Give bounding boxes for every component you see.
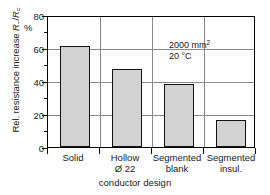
x-label-solid-line1: Solid (47, 152, 99, 163)
x-label-segmented-insul: Segmented insul. (202, 152, 260, 174)
x-label-hollow: Hollow Ø 22 (99, 152, 151, 174)
annotation-area-exponent: 2 (207, 39, 211, 46)
bar-hollow (112, 69, 142, 147)
x-label-segmented-blank-line1: Segmented (149, 152, 205, 163)
y-axis-unit: % (24, 23, 32, 32)
annotation-area-line: 2000 mm2 (169, 37, 210, 51)
x-label-segmented-insul-line1: Segmented (202, 152, 260, 163)
x-label-segmented-blank-line2: blank (149, 163, 205, 174)
annotation-temperature-line: 20 °C (169, 51, 210, 62)
y-axis-symbol-numerator: R (10, 24, 21, 31)
bar-segmented-insul (216, 120, 246, 147)
y-tick-label-20: 20 (20, 111, 44, 120)
bar-segmented-blank (164, 84, 194, 147)
y-tick-label-0: 0 (20, 144, 44, 153)
y-axis-symbol-denominator-sub: = (15, 8, 22, 12)
x-label-solid: Solid (47, 152, 99, 163)
y-tick-label-60: 60 (20, 45, 44, 54)
gridline-x-2 (152, 17, 153, 147)
y-axis-symbol-numerator-sub: ~ (15, 21, 22, 25)
x-axis-title: conductor design (0, 177, 270, 188)
x-label-hollow-line2: Ø 22 (99, 163, 151, 174)
annotation-area-value: 2000 mm (169, 40, 207, 50)
chart-container: Rel. resistance increase R~/R= % 80 60 4… (0, 0, 270, 195)
y-tick-label-80: 80 (20, 12, 44, 21)
y-tick-label-40: 40 (20, 78, 44, 87)
x-label-segmented-insul-line2: insul. (202, 163, 260, 174)
annotation-conditions: 2000 mm2 20 °C (169, 37, 210, 62)
x-label-segmented-blank: Segmented blank (149, 152, 205, 174)
plot-area: 2000 mm2 20 °C (47, 16, 255, 148)
x-label-hollow-line1: Hollow (99, 152, 151, 163)
gridline-x-1 (100, 17, 101, 147)
bar-solid (60, 46, 90, 147)
